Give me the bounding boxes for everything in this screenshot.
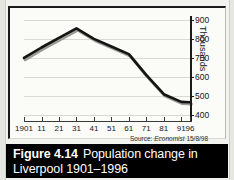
category-axis-tick (24, 117, 25, 121)
category-axis-tick-label: 71 (142, 124, 151, 133)
category-axis-tick-label: 96 (186, 124, 195, 133)
category-axis-tick-label: 21 (54, 124, 63, 133)
line-series-shadow (25, 30, 191, 104)
chart-panel: 400500600700800900 Thousands 19011121314… (8, 6, 226, 139)
source-prefix: Source: (130, 135, 152, 142)
category-axis-tick (94, 117, 95, 121)
category-axis-tick-label: 41 (89, 124, 98, 133)
category-axis-tick-label: 81 (159, 124, 168, 133)
category-axis-tick-label: 31 (72, 124, 81, 133)
figure-number: Figure 4.14 (13, 147, 78, 161)
category-axis-tick (111, 117, 112, 121)
value-axis-line (190, 16, 192, 122)
value-axis-tick (190, 20, 194, 21)
category-axis-tick (59, 117, 60, 121)
category-axis-tick (129, 117, 130, 121)
category-axis-tick (146, 117, 147, 121)
value-axis-tick (190, 58, 194, 59)
category-axis-tick-label: 11 (37, 124, 45, 133)
category-axis-tick-label: 1901 (15, 124, 33, 133)
value-axis-tick (190, 77, 194, 78)
figure-caption-line-2: Liverpool 1901–1996 (13, 162, 222, 177)
source-date: 15/8/98 (186, 135, 208, 142)
category-axis-tick (190, 117, 191, 121)
plot-area (24, 16, 190, 120)
value-axis-title: Thousands (198, 26, 208, 116)
figure-caption-line-1: Figure 4.14Population change in (13, 147, 222, 162)
category-axis-tick (76, 117, 77, 121)
category-axis-tick (164, 117, 165, 121)
value-axis-tick-label: 900 (195, 15, 209, 24)
category-axis-tick (42, 117, 43, 121)
source-note: Source: Economist 15/8/98 (130, 135, 208, 143)
line-series (24, 16, 190, 120)
figure-caption-bar: Figure 4.14Population change in Liverpoo… (6, 144, 228, 178)
figure-caption-text: Population change in (83, 147, 198, 161)
page-edge-right (229, 0, 234, 180)
category-axis-line (24, 121, 192, 122)
category-axis-tick-label: 61 (124, 124, 133, 133)
value-axis-tick (190, 96, 194, 97)
source-publication: Economist (154, 135, 184, 142)
category-axis-tick (181, 117, 182, 121)
value-axis-tick (190, 39, 194, 40)
category-axis-tick-label: 51 (107, 124, 116, 133)
category-axis-tick-label: 91 (177, 124, 186, 133)
figure-container: 400500600700800900 Thousands 19011121314… (0, 0, 234, 180)
line-series-path (24, 28, 190, 102)
